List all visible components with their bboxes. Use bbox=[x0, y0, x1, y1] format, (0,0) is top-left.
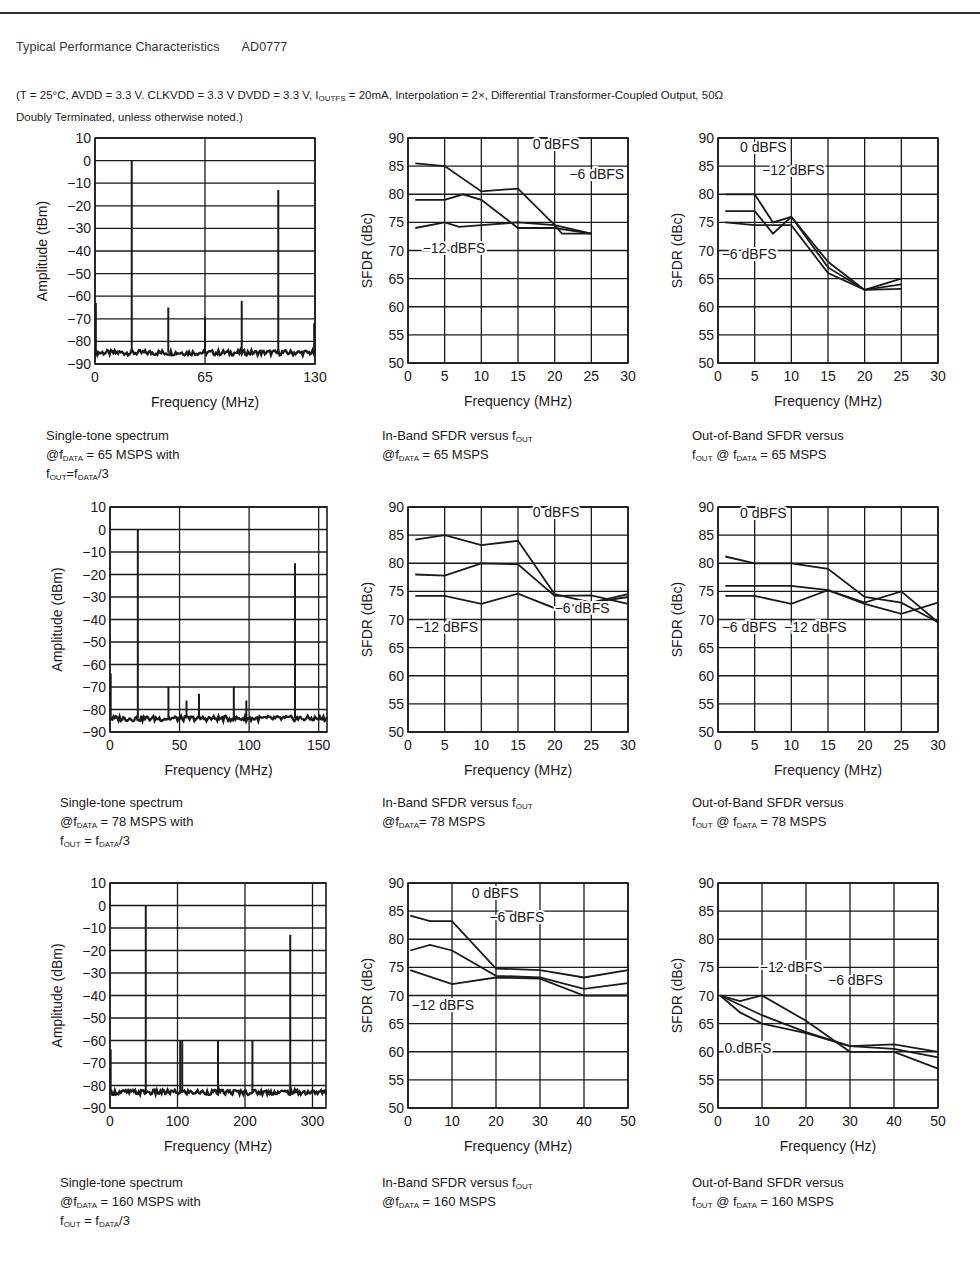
svg-text:30: 30 bbox=[842, 1113, 858, 1129]
caption-line: fOUT = fDATA/3 bbox=[60, 831, 193, 850]
svg-text:80: 80 bbox=[698, 931, 714, 947]
chart-svg: 908580757065605550051015202530Frequency … bbox=[350, 495, 650, 785]
svg-text:60: 60 bbox=[388, 299, 404, 315]
svg-text:5: 5 bbox=[751, 737, 759, 753]
svg-text:90: 90 bbox=[388, 875, 404, 891]
svg-text:10: 10 bbox=[90, 875, 106, 891]
caption-line: @fDATA = 78 MSPS with bbox=[60, 812, 193, 831]
y-axis-label: SFDR (dBc) bbox=[359, 582, 375, 657]
svg-text:−70: −70 bbox=[67, 311, 91, 327]
svg-text:50: 50 bbox=[388, 724, 404, 740]
svg-text:90: 90 bbox=[698, 130, 714, 146]
y-tick-labels: 908580757065605550 bbox=[388, 875, 404, 1116]
svg-text:10: 10 bbox=[784, 737, 800, 753]
svg-text:15: 15 bbox=[820, 368, 836, 384]
svg-text:−10: −10 bbox=[67, 175, 91, 191]
x-axis-label: Frequency (MHz) bbox=[774, 762, 882, 778]
svg-text:−20: −20 bbox=[82, 567, 106, 583]
svg-text:0: 0 bbox=[404, 368, 412, 384]
svg-text:60: 60 bbox=[698, 1044, 714, 1060]
svg-text:55: 55 bbox=[388, 1072, 404, 1088]
series-annotation: −6 dBFS bbox=[489, 909, 544, 925]
svg-text:−70: −70 bbox=[82, 1055, 106, 1071]
caption-inband-65: In-Band SFDR versus fOUT@fDATA = 65 MSPS bbox=[382, 426, 533, 464]
svg-text:0: 0 bbox=[83, 153, 91, 169]
svg-text:−90: −90 bbox=[82, 724, 106, 740]
y-tick-labels: 908580757065605550 bbox=[388, 499, 404, 740]
svg-text:−60: −60 bbox=[82, 1033, 106, 1049]
svg-text:0: 0 bbox=[106, 1113, 114, 1129]
svg-text:−30: −30 bbox=[82, 589, 106, 605]
series-annotation: 0 dBFS bbox=[533, 504, 580, 520]
svg-text:90: 90 bbox=[698, 875, 714, 891]
svg-text:10: 10 bbox=[474, 737, 490, 753]
series-annotation: 0 dBFS bbox=[725, 1040, 772, 1056]
svg-text:90: 90 bbox=[388, 130, 404, 146]
svg-text:75: 75 bbox=[388, 214, 404, 230]
svg-text:60: 60 bbox=[698, 299, 714, 315]
svg-text:10: 10 bbox=[75, 130, 91, 146]
chart-svg: 100−10−20−30−40−50−60−70−80−900100200300… bbox=[30, 870, 340, 1170]
svg-text:−40: −40 bbox=[82, 988, 106, 1004]
svg-text:50: 50 bbox=[698, 724, 714, 740]
top-rule bbox=[0, 12, 980, 14]
chart-svg: 90858075706560555001020304050Frequency (… bbox=[350, 870, 650, 1170]
svg-text:130: 130 bbox=[303, 369, 327, 385]
svg-text:−40: −40 bbox=[82, 612, 106, 628]
svg-text:−50: −50 bbox=[82, 634, 106, 650]
caption-line: @fDATA= 78 MSPS bbox=[382, 812, 533, 831]
svg-text:−40: −40 bbox=[67, 243, 91, 259]
caption-line: In-Band SFDR versus fOUT bbox=[382, 426, 533, 445]
series-line bbox=[720, 996, 938, 1069]
series-annotation: 0 dBFS bbox=[533, 136, 580, 152]
svg-text:70: 70 bbox=[388, 612, 404, 628]
caption-line: Out-of-Band SFDR versus bbox=[692, 426, 844, 445]
part-number: AD0777 bbox=[242, 40, 288, 54]
svg-text:−80: −80 bbox=[82, 1078, 106, 1094]
caption-spectrum-160: Single-tone spectrum@fDATA = 160 MSPS wi… bbox=[60, 1173, 201, 1230]
caption-line: In-Band SFDR versus fOUT bbox=[382, 1173, 533, 1192]
svg-text:60: 60 bbox=[388, 1044, 404, 1060]
svg-text:0: 0 bbox=[98, 522, 106, 538]
svg-text:20: 20 bbox=[857, 368, 873, 384]
svg-text:55: 55 bbox=[388, 696, 404, 712]
svg-text:10: 10 bbox=[784, 368, 800, 384]
svg-text:50: 50 bbox=[172, 737, 188, 753]
series-annotation: −12 dBFS bbox=[762, 162, 825, 178]
svg-text:75: 75 bbox=[698, 583, 714, 599]
svg-text:0: 0 bbox=[98, 898, 106, 914]
svg-text:150: 150 bbox=[307, 737, 331, 753]
y-tick-labels: 100−10−20−30−40−50−60−70−80−90 bbox=[82, 875, 106, 1116]
conditions-text: (T = 25°C, AVDD = 3.3 V. CLKVDD = 3.3 V … bbox=[16, 89, 318, 101]
series-annotation: 0 dBFS bbox=[740, 139, 787, 155]
chart-svg: 908580757065605550051015202530Frequency … bbox=[660, 130, 960, 415]
caption-line: @fDATA = 65 MSPS with bbox=[46, 445, 179, 464]
series-line bbox=[415, 222, 591, 233]
svg-text:15: 15 bbox=[820, 737, 836, 753]
svg-text:−50: −50 bbox=[67, 266, 91, 282]
svg-text:0: 0 bbox=[714, 737, 722, 753]
series-line bbox=[725, 194, 901, 290]
svg-text:−30: −30 bbox=[67, 220, 91, 236]
series-annotation: −12 dBFS bbox=[760, 959, 823, 975]
series-annotation: −6 dBFS bbox=[555, 600, 610, 616]
conditions-text-rest: = 20mA, Interpolation = 2×, Differential… bbox=[346, 89, 724, 101]
caption-spectrum-65: Single-tone spectrum@fDATA = 65 MSPS wit… bbox=[46, 426, 179, 483]
svg-text:−80: −80 bbox=[67, 333, 91, 349]
svg-text:65: 65 bbox=[388, 1016, 404, 1032]
svg-text:75: 75 bbox=[698, 959, 714, 975]
svg-text:85: 85 bbox=[698, 158, 714, 174]
y-tick-labels: 908580757065605550 bbox=[698, 130, 714, 371]
svg-text:−60: −60 bbox=[67, 288, 91, 304]
caption-line: fOUT @ fDATA = 78 MSPS bbox=[692, 812, 844, 831]
svg-text:0: 0 bbox=[404, 1113, 412, 1129]
svg-text:100: 100 bbox=[237, 737, 261, 753]
svg-text:−30: −30 bbox=[82, 965, 106, 981]
y-tick-labels: 100−10−20−30−40−50−60−70−80−90 bbox=[82, 499, 106, 740]
y-tick-labels: 908580757065605550 bbox=[698, 875, 714, 1116]
svg-text:85: 85 bbox=[388, 158, 404, 174]
svg-text:20: 20 bbox=[488, 1113, 504, 1129]
caption-outband-78: Out-of-Band SFDR versusfOUT @ fDATA = 78… bbox=[692, 793, 844, 831]
svg-text:5: 5 bbox=[441, 737, 449, 753]
svg-text:80: 80 bbox=[698, 555, 714, 571]
